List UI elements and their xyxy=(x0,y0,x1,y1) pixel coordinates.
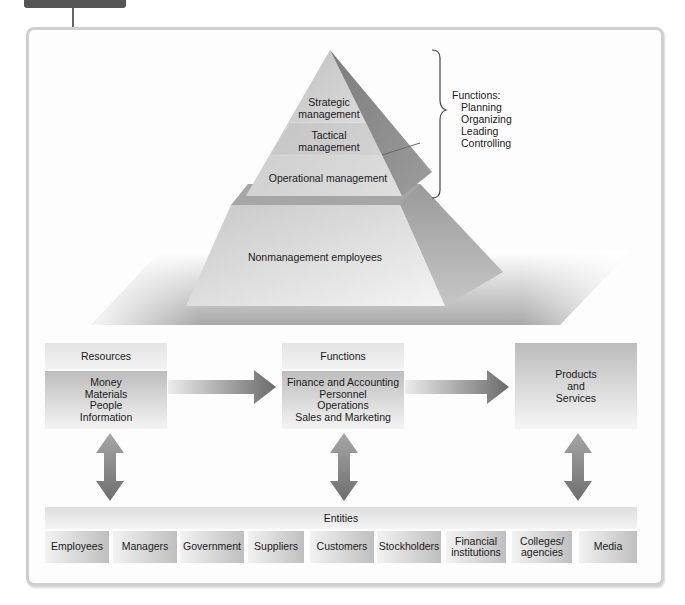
business-function-item: Operations xyxy=(317,400,368,412)
level-strategic-label: Strategicmanagement xyxy=(286,96,372,120)
resources-header: Resources xyxy=(45,343,167,369)
business-function-item: Finance and Accounting xyxy=(287,377,399,389)
resource-item: People xyxy=(90,400,123,412)
function-item: Controlling xyxy=(452,137,512,149)
entity-media: Media xyxy=(579,531,637,563)
entity-employees: Employees xyxy=(45,531,109,563)
level-operational-label: Operational management xyxy=(250,172,406,184)
level-nonmanagement-label: Nonmanagement employees xyxy=(200,251,430,263)
resources-list: Money Materials People Information xyxy=(45,371,167,429)
double-arrow-vertical-icon xyxy=(564,433,592,503)
brace-icon xyxy=(432,50,446,198)
arrow-right-icon xyxy=(405,370,511,404)
level-tactical-label: Tacticalmanagement xyxy=(286,129,372,153)
functions-header: Functions xyxy=(282,343,404,369)
function-item: Leading xyxy=(452,125,512,137)
management-functions-title: Functions: xyxy=(452,89,512,101)
products-services-box: Products and Services xyxy=(515,343,637,429)
double-arrow-vertical-icon xyxy=(96,433,124,503)
management-pyramid xyxy=(0,0,685,340)
business-function-item: Sales and Marketing xyxy=(295,412,391,424)
function-item: Organizing xyxy=(452,113,512,125)
management-functions-list: Functions: Planning Organizing Leading C… xyxy=(452,89,512,149)
resource-item: Information xyxy=(80,412,133,424)
entity-government: Government xyxy=(180,531,244,563)
entity-customers: Customers xyxy=(310,531,374,563)
arrow-right-icon xyxy=(168,370,278,404)
entities-header: Entities xyxy=(45,507,637,529)
function-item: Planning xyxy=(452,101,512,113)
entity-managers: Managers xyxy=(113,531,177,563)
entity-colleges-agencies: Colleges/agencies xyxy=(512,531,572,563)
entity-financial-institutions: Financialinstitutions xyxy=(446,531,506,563)
resource-item: Money xyxy=(90,377,122,389)
double-arrow-vertical-icon xyxy=(330,433,358,503)
business-functions-list: Finance and Accounting Personnel Operati… xyxy=(282,371,404,429)
entity-stockholders: Stockholders xyxy=(377,531,441,563)
entity-suppliers: Suppliers xyxy=(248,531,304,563)
